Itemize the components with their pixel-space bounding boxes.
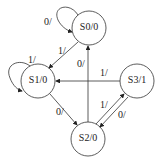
state-s1-label: S1/0 xyxy=(29,74,47,85)
state-s3-label: S3/1 xyxy=(128,74,146,85)
transition-s2-s0-label: 0/ xyxy=(77,58,85,69)
transition-s1-s1-label: 1/ xyxy=(28,54,36,65)
state-s0-label: S0/0 xyxy=(80,21,98,32)
transition-s1-s2: 0/ xyxy=(50,94,77,125)
transition-s1-s2-label: 0/ xyxy=(56,106,64,117)
transition-s0-s1-label: 1/ xyxy=(58,45,66,56)
transition-s0-s1: 1/ xyxy=(49,42,78,68)
transition-s0-s0-label: 0/ xyxy=(44,16,52,27)
state-s2: S2/0 xyxy=(71,122,105,156)
transition-s3-s2-label: 0/ xyxy=(118,109,126,120)
state-s1: S1/0 xyxy=(21,64,55,98)
state-diagram: S0/0 S1/0 S3/1 S2/0 0/ 1/ 1/ 0/ 0/ 1/ xyxy=(0,0,162,164)
transition-s2-s0: 0/ xyxy=(77,46,88,122)
transition-s3-s1-label: 1/ xyxy=(100,67,108,78)
state-s3: S3/1 xyxy=(120,64,154,98)
state-s2-label: S2/0 xyxy=(79,132,97,143)
state-s0: S0/0 xyxy=(72,11,106,45)
transition-s2-s3-label: 1/ xyxy=(100,99,108,110)
